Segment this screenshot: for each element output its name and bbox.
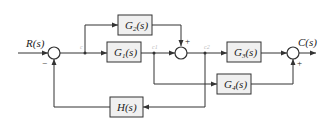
arrow-icon <box>281 51 287 56</box>
arrow-icon <box>101 51 107 56</box>
arrow-icon <box>112 23 118 28</box>
arrow-icon <box>291 59 296 65</box>
output-label: C(s) <box>298 36 317 49</box>
node-label-c1: c1 <box>152 44 158 50</box>
arrow-icon <box>52 59 57 65</box>
block-g1-label: G1(s) <box>114 46 137 60</box>
node-label-c: c <box>80 44 83 50</box>
block-diagram: R(s) − c G1(s) G2(s) + c1 c2 G3(s) C(s) … <box>0 0 328 131</box>
g4-sign: + <box>297 58 302 68</box>
arrow-icon <box>310 51 316 56</box>
summing-junction-1 <box>48 47 60 59</box>
block-h-label: H(s) <box>116 101 137 114</box>
block-g3-label: G3(s) <box>234 46 257 60</box>
arrow-icon <box>221 51 227 56</box>
arrow-icon <box>42 51 48 56</box>
node-label-c2: c2 <box>204 44 210 50</box>
arrow-icon <box>179 40 184 46</box>
arrow-icon <box>169 51 175 56</box>
block-g4-label: G4(s) <box>224 78 247 92</box>
input-label: R(s) <box>25 37 45 50</box>
arrow-icon <box>211 82 217 87</box>
block-g2-label: G2(s) <box>125 19 148 33</box>
feedback-sign: − <box>42 58 47 68</box>
summing-junction-2 <box>175 47 187 59</box>
arrow-icon <box>143 105 149 110</box>
g2-sign: + <box>185 36 190 46</box>
